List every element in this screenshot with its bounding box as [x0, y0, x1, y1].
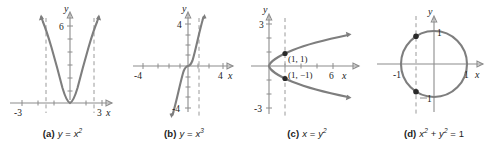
panel-c-ytick-neg3: -3	[254, 104, 262, 114]
panel-d-equation: x2 + y2 = 1	[419, 128, 464, 139]
panel-b-tag: (b)	[164, 128, 176, 139]
panel-b-plot: -4 4 x 4 -4 y	[125, 0, 243, 124]
panel-a-equation: y = x2	[58, 128, 83, 139]
panel-b-xtick-4: 4	[218, 71, 223, 81]
panel-c-equation: x = y2	[302, 128, 327, 139]
panel-d-caption: (d)x2 + y2 = 1	[371, 128, 497, 139]
panel-c-xaxis-label: x	[341, 70, 347, 81]
panel-c-point-label-upper: (1, 1)	[288, 54, 308, 64]
panel-a-y-axis	[67, 12, 73, 100]
panel-d-ytick-1: 1	[437, 28, 442, 38]
panel-b-xtick-neg4: -4	[134, 71, 142, 81]
panel-b-yaxis-label: y	[181, 3, 187, 14]
panel-b-ytick-4: 4	[177, 20, 182, 30]
panel-a-x-axis	[10, 100, 112, 106]
panel-d-svg: -1 1 x 1 1 y	[371, 0, 497, 124]
panel-b-x-axis	[133, 63, 233, 69]
panel-a-xtick-3: 3	[97, 108, 102, 118]
panel-d-ytick-neg1: 1	[427, 94, 432, 104]
panel-d-xtick-1: 1	[464, 70, 469, 80]
panel-a-tag: (a)	[43, 128, 55, 139]
panel-a-ytick-6: 6	[59, 22, 64, 32]
panel-d-plot: -1 1 x 1 1 y	[371, 0, 497, 124]
panel-c-xtick-6: 6	[329, 71, 334, 81]
panel-a: -3 3 x 6 y (a)y = x2	[0, 0, 125, 141]
panel-c: 6 x 3 -3 y (1, 1) (1, −1) (c)x = y2	[243, 0, 371, 141]
panel-b: -4 4 x 4 -4 y (b)y = x3	[125, 0, 243, 141]
panel-a-yaxis-label: y	[63, 3, 69, 14]
panel-b-y-axis	[185, 12, 191, 112]
panel-c-plot: 6 x 3 -3 y (1, 1) (1, −1)	[243, 0, 371, 124]
panel-b-equation: y = x3	[179, 128, 204, 139]
panel-b-svg: -4 4 x 4 -4 y	[125, 0, 243, 124]
panel-c-yaxis-label: y	[262, 4, 268, 15]
panel-d-tag: (d)	[404, 128, 416, 139]
panel-b-xaxis-label: x	[227, 70, 233, 81]
panel-d-xaxis-label: x	[474, 69, 480, 80]
panel-c-svg: 6 x 3 -3 y (1, 1) (1, −1)	[243, 0, 371, 124]
panel-c-tag: (c)	[287, 128, 299, 139]
panel-b-caption: (b)y = x3	[125, 128, 243, 139]
panel-a-xtick-neg3: -3	[14, 108, 22, 118]
figure-panel-row: -3 3 x 6 y (a)y = x2	[0, 0, 497, 141]
panel-a-xaxis-label: x	[105, 107, 111, 118]
panel-c-point-label-lower: (1, −1)	[288, 70, 313, 80]
panel-a-plot: -3 3 x 6 y	[0, 0, 125, 124]
panel-c-caption: (c)x = y2	[243, 128, 371, 139]
panel-b-ytick-neg4: -4	[172, 104, 180, 114]
panel-d-xtick-neg1: -1	[393, 70, 401, 80]
panel-d-yaxis-label: y	[427, 6, 433, 17]
panel-a-caption: (a)y = x2	[0, 128, 125, 139]
panel-d: -1 1 x 1 1 y (d)x2 + y2 = 1	[371, 0, 497, 141]
panel-a-svg: -3 3 x 6 y	[0, 0, 125, 124]
panel-c-ytick-3: 3	[259, 20, 264, 30]
